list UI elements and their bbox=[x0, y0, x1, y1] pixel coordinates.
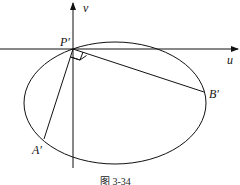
label-v: v bbox=[83, 2, 88, 14]
ellipse bbox=[24, 42, 206, 164]
label-b: B′ bbox=[209, 88, 219, 100]
label-p: P′ bbox=[60, 36, 70, 48]
diagram-canvas bbox=[0, 0, 240, 185]
segment-pa bbox=[44, 49, 73, 139]
label-a: A′ bbox=[32, 144, 42, 156]
figure-caption: 图 3-34 bbox=[100, 177, 131, 185]
segment-pb bbox=[73, 49, 204, 92]
label-u: u bbox=[227, 54, 233, 66]
